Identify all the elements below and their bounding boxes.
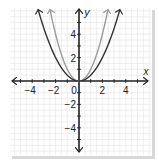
x-tick-label: −4 [24,85,36,96]
y-tick-label: −2 [65,99,77,110]
y-tick-label: −4 [65,123,77,134]
x-tick-label: 2 [100,85,106,96]
y-tick-label: 2 [70,53,76,64]
x-axis-label: x [143,66,150,77]
y-tick-label: 4 [70,29,76,40]
x-tick-label: 4 [123,85,129,96]
x-tick-label: −2 [48,85,60,96]
origin-label: 0 [71,85,77,96]
parabola-chart: −4−22442−2−40xy [0,0,159,163]
